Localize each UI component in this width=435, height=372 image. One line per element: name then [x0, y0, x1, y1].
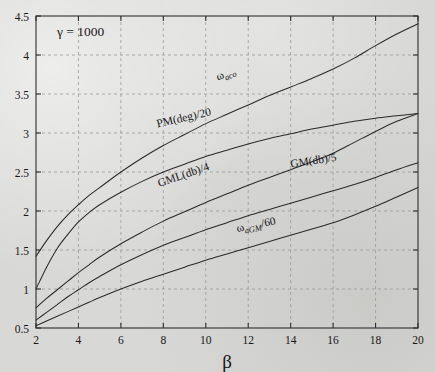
x-axis-title: β	[222, 351, 232, 372]
gamma-annotation: γ = 1000	[56, 24, 105, 39]
y-tick-label: 1	[23, 284, 29, 296]
line-chart-plot: 2468101214161820 0.511.522.533.544.5 ωac…	[0, 0, 435, 372]
y-tick-labels: 0.511.522.533.544.5	[15, 11, 30, 335]
x-tick-label: 2	[33, 334, 39, 346]
x-tick-label: 18	[370, 334, 382, 346]
chart-annotations: γ = 1000	[56, 24, 105, 39]
y-tick-label: 2	[23, 206, 29, 218]
y-tick-label: 4	[23, 50, 29, 62]
x-tick-label: 8	[160, 334, 166, 346]
data-curves	[36, 24, 418, 326]
curve-label-gm_db_over_5: GM(db)/5	[289, 151, 337, 171]
x-tick-label: 16	[327, 334, 339, 346]
x-tick-label: 10	[200, 334, 212, 346]
x-tick-label: 12	[242, 334, 254, 346]
y-tick-label: 1.5	[15, 245, 30, 257]
y-tick-label: 4.5	[15, 11, 30, 23]
gridlines	[36, 16, 418, 328]
curve-omega_aco	[36, 24, 418, 256]
y-tick-label: 2.5	[15, 167, 30, 179]
curve-pm_deg_over_20	[36, 114, 418, 290]
x-tick-label: 4	[76, 334, 82, 346]
curve-label-pm_deg_over_20: PM(deg)/20	[155, 105, 212, 130]
y-tick-label: 0.5	[15, 323, 30, 335]
x-tick-label: 6	[118, 334, 124, 346]
x-tick-label: 14	[285, 334, 297, 346]
y-tick-label: 3.5	[15, 89, 30, 101]
curve-gm_db_over_5	[36, 163, 418, 321]
chart-figure: 2468101214161820 0.511.522.533.544.5 ωac…	[0, 0, 435, 372]
curve-label-omega_aco: ωaco	[214, 64, 238, 85]
curve-omega_aGM_over_60	[36, 188, 418, 326]
x-axis-title: β	[222, 351, 232, 372]
x-tick-labels: 2468101214161820	[33, 334, 424, 346]
y-tick-label: 3	[23, 128, 29, 140]
x-tick-label: 20	[412, 334, 424, 346]
